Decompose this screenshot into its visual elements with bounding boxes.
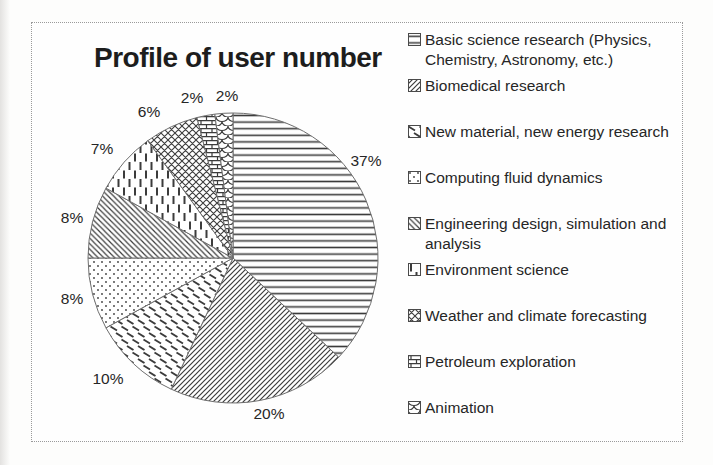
legend-item-8: Petroleum exploration xyxy=(408,352,676,372)
percent-label-8: 2% xyxy=(181,89,204,106)
legend-item-7: Weather and climate forecasting xyxy=(408,306,676,326)
horizontal-lines-swatch-icon xyxy=(408,33,421,46)
brick-swatch-icon xyxy=(408,355,421,368)
legend-item-1: Basic science research (Physics, Chemist… xyxy=(408,30,676,70)
diagonal-back-hatch-swatch-icon xyxy=(408,217,421,230)
percent-label-4: 8% xyxy=(61,290,84,307)
legend-label-9: Animation xyxy=(425,398,494,418)
percent-label-6: 7% xyxy=(91,140,114,157)
crosshatch-swatch-icon xyxy=(408,309,421,322)
legend-item-2: Biomedical research xyxy=(408,76,676,96)
percent-label-1: 37% xyxy=(350,152,381,169)
legend-item-4: Computing fluid dynamics xyxy=(408,168,676,188)
diagonal-dashes-swatch-icon xyxy=(408,125,421,138)
legend-label-2: Biomedical research xyxy=(425,76,565,96)
legend-item-3: New material, new energy research xyxy=(408,122,676,142)
percent-label-9: 2% xyxy=(216,87,239,104)
legend-item-9: Animation xyxy=(408,398,676,418)
percent-label-2: 20% xyxy=(253,405,284,422)
vertical-dashes-swatch-icon xyxy=(408,263,421,276)
legend-item-5: Engineering design, simulation and analy… xyxy=(408,214,676,254)
legend-label-1: Basic science research (Physics, Chemist… xyxy=(425,30,675,70)
percent-label-5: 8% xyxy=(61,209,84,226)
percent-label-7: 6% xyxy=(138,103,161,120)
chart-title: Profile of user number xyxy=(94,42,404,74)
percent-label-3: 10% xyxy=(92,370,123,387)
scales-swatch-icon xyxy=(408,401,421,414)
legend-label-4: Computing fluid dynamics xyxy=(425,168,602,188)
legend-label-3: New material, new energy research xyxy=(425,122,669,142)
legend-item-6: Environment science xyxy=(408,260,676,280)
legend-label-6: Environment science xyxy=(425,260,569,280)
legend-label-7: Weather and climate forecasting xyxy=(425,306,647,326)
dots-swatch-icon xyxy=(408,171,421,184)
diagonal-forward-hatch-swatch-icon xyxy=(408,79,421,92)
legend-label-5: Engineering design, simulation and analy… xyxy=(425,214,675,254)
legend-label-8: Petroleum exploration xyxy=(425,352,576,372)
